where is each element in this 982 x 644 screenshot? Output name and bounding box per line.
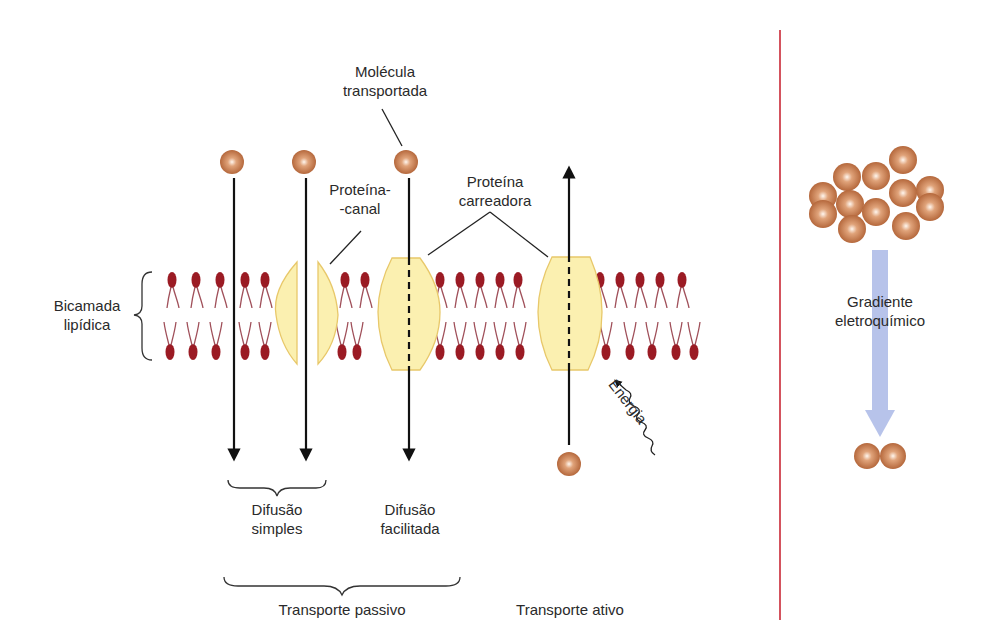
- label-simple-diffusion: Difusão simples: [232, 500, 322, 538]
- molecule: [220, 150, 244, 174]
- label-channel-protein: Proteína- -canal: [310, 180, 410, 218]
- label-active-transport: Transporte ativo: [490, 600, 650, 619]
- membrane-transport-diagram: Molécula transportada Proteína- -canal P…: [0, 0, 982, 644]
- molecule-cluster-high: [809, 146, 944, 243]
- molecule: [292, 150, 316, 174]
- label-passive-transport: Transporte passivo: [252, 600, 432, 619]
- label-electrochemical-gradient: Gradiente eletroquímico: [820, 292, 940, 330]
- simple-diffusion-brace: [228, 480, 326, 496]
- bilayer-brace: [134, 272, 152, 360]
- molecule: [394, 150, 418, 174]
- molecule-cluster-low: [854, 443, 906, 469]
- label-carrier-protein: Proteína carreadora: [445, 172, 545, 210]
- gradient-arrow: [865, 250, 895, 437]
- label-transported-molecule: Molécula transportada: [335, 62, 435, 100]
- passive-transport-brace: [224, 577, 460, 595]
- label-facilitated-diffusion: Difusão facilitada: [360, 500, 460, 538]
- molecule: [557, 452, 581, 476]
- label-lipid-bilayer: Bicamada lipídica: [42, 296, 132, 334]
